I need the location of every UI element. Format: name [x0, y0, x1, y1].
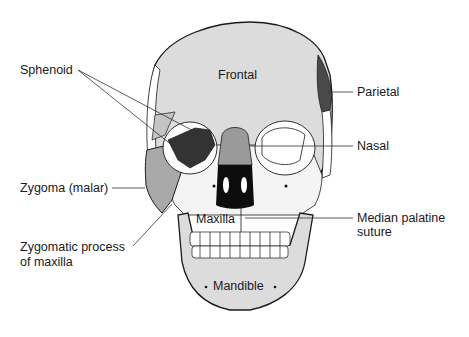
label-median-palatine-line1: Median palatine: [357, 211, 445, 225]
label-sphenoid: Sphenoid: [20, 63, 73, 77]
teeth: [190, 232, 290, 258]
foramen-left: [213, 185, 216, 188]
mental-foramen-right: [274, 286, 277, 289]
label-zygomatic-process-line1: Zygomatic process: [20, 240, 125, 254]
foramen-right: [285, 185, 288, 188]
mandible-bone: [178, 213, 313, 310]
label-zygomatic-process-line2: of maxilla: [20, 255, 73, 269]
nasal-cavity: [216, 165, 254, 209]
nasal-concha-left: [223, 177, 229, 193]
label-maxilla: Maxilla: [196, 212, 235, 226]
nasal-concha-right: [241, 177, 247, 193]
label-zygoma: Zygoma (malar): [20, 181, 108, 195]
mental-foramen-left: [205, 286, 208, 289]
right-orbit: [255, 121, 315, 175]
nasal-bone: [218, 128, 252, 166]
label-median-palatine-line2: suture: [357, 225, 392, 239]
label-frontal: Frontal: [218, 68, 257, 82]
label-nasal: Nasal: [357, 139, 389, 153]
label-mandible: Mandible: [213, 279, 264, 293]
label-parietal: Parietal: [357, 85, 399, 99]
right-temporal-strip: [322, 110, 332, 178]
